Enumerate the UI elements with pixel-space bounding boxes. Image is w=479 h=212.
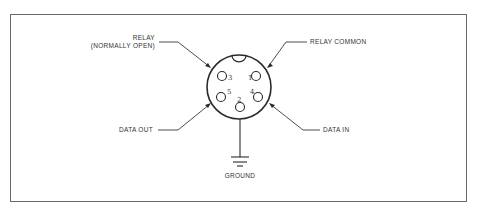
- pin-5-icon: [217, 93, 226, 102]
- pin-2-label: 2: [237, 96, 241, 104]
- relay-label: RELAY: [133, 34, 156, 41]
- pin-4-icon: [254, 93, 263, 102]
- pin-5-label: 5: [227, 88, 231, 96]
- pin-1-icon: [252, 72, 261, 81]
- relay-common-leader-line: [268, 42, 307, 67]
- pin-1-label: 1: [248, 74, 252, 82]
- pin-4-label: 4: [250, 88, 255, 96]
- relay-common-label: RELAY COMMON: [310, 38, 366, 45]
- pinout-diagram: 3 1 5 4 2 RELAY (NORMALLY OPEN) RELAY CO…: [0, 0, 479, 212]
- relay-normally-open-label: (NORMALLY OPEN): [91, 42, 155, 50]
- ground-symbol-icon: [231, 119, 249, 166]
- connector: [207, 55, 271, 119]
- relay-leader-line: [159, 42, 210, 67]
- data-in-label: DATA IN: [323, 126, 349, 133]
- data-out-label: DATA OUT: [119, 126, 153, 133]
- connector-outline: [207, 55, 271, 119]
- key-notch-icon: [232, 56, 246, 62]
- ground-label: GROUND: [225, 172, 256, 179]
- arrow-icon: [267, 63, 273, 68]
- pin-3-label: 3: [228, 74, 232, 82]
- data-in-leader-line: [270, 104, 320, 130]
- pin-3-icon: [218, 72, 227, 81]
- data-out-leader-line: [158, 104, 210, 130]
